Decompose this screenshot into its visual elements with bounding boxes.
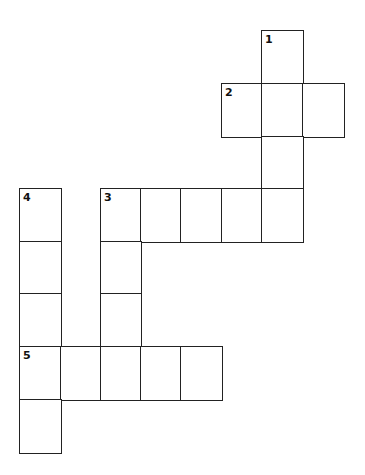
crossword-cell[interactable] <box>19 293 62 348</box>
crossword-cell[interactable] <box>60 346 102 401</box>
crossword-cell[interactable] <box>100 241 142 295</box>
clue-number: 2 <box>225 87 233 98</box>
crossword-grid: 12435 <box>0 0 365 475</box>
crossword-cell[interactable] <box>261 83 304 138</box>
crossword-cell[interactable] <box>140 346 182 401</box>
crossword-cell[interactable]: 3 <box>100 188 142 243</box>
clue-number: 3 <box>104 192 112 203</box>
clue-number: 5 <box>23 350 31 361</box>
crossword-cell[interactable]: 2 <box>221 83 263 138</box>
crossword-cell[interactable] <box>19 399 62 454</box>
crossword-cell[interactable] <box>302 83 345 138</box>
crossword-cell[interactable] <box>261 188 304 243</box>
crossword-cell[interactable] <box>100 293 142 348</box>
crossword-cell[interactable] <box>140 188 182 243</box>
crossword-cell[interactable] <box>100 346 142 401</box>
clue-number: 1 <box>265 34 273 45</box>
crossword-cell[interactable] <box>180 346 223 401</box>
crossword-cell[interactable]: 4 <box>19 188 62 243</box>
crossword-cell[interactable] <box>180 188 223 243</box>
crossword-cell[interactable]: 5 <box>19 346 62 401</box>
clue-number: 4 <box>23 192 31 203</box>
crossword-cell[interactable] <box>19 241 62 295</box>
crossword-cell[interactable] <box>221 188 263 243</box>
crossword-cell[interactable]: 1 <box>261 30 304 85</box>
crossword-cell[interactable] <box>261 136 304 190</box>
